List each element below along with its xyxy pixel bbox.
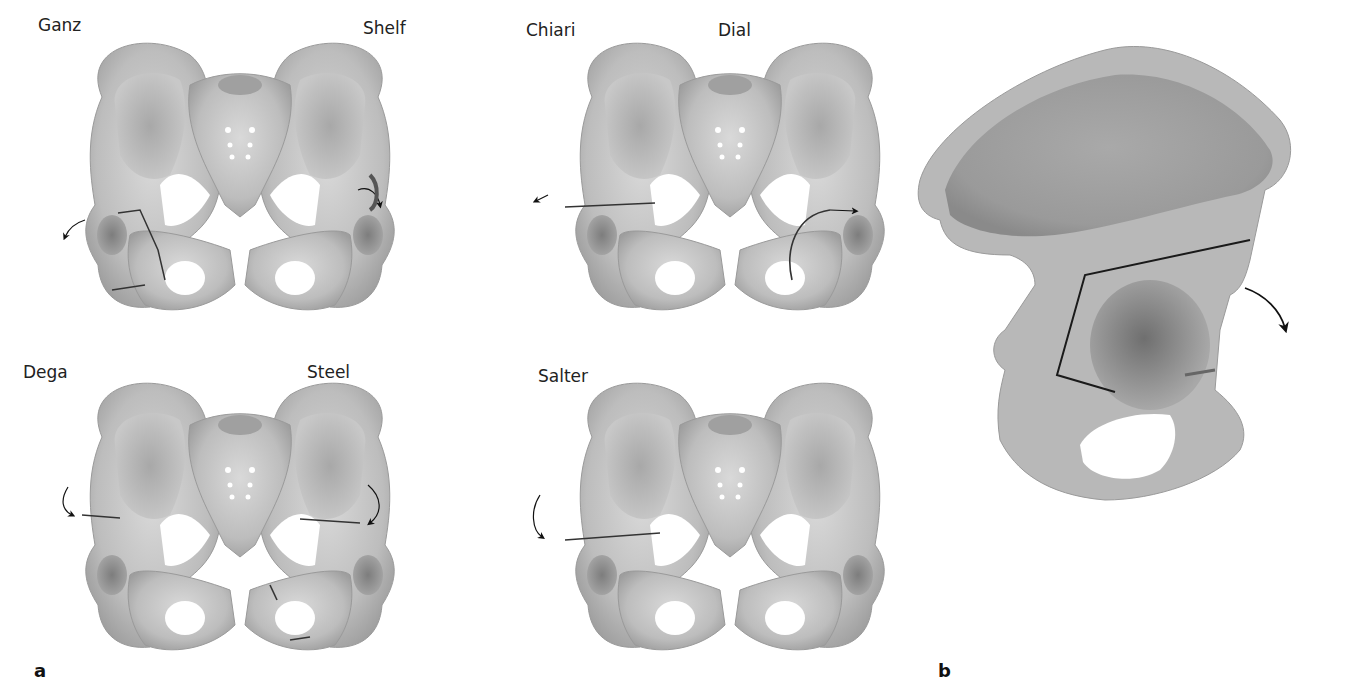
rotation-arrow-icon <box>63 487 72 515</box>
panel-label-a: a <box>34 660 46 681</box>
label-shelf: Shelf <box>363 18 406 38</box>
panel-label-b: b <box>938 660 951 681</box>
label-salter: Salter <box>538 366 588 386</box>
pelvis-illustration <box>40 35 440 325</box>
label-dega: Dega <box>23 362 68 382</box>
hemipelvis-lateral <box>905 30 1345 680</box>
label-ganz: Ganz <box>38 15 81 35</box>
displacement-arrow-icon <box>536 195 548 201</box>
label-steel: Steel <box>307 362 350 382</box>
pelvis-dega-steel: Dega Steel <box>40 375 440 665</box>
label-chiari: Chiari <box>526 20 576 40</box>
pelvis-illustration <box>40 375 440 665</box>
pelvis-illustration <box>530 375 930 665</box>
rotation-arrow-icon <box>65 220 85 237</box>
pelvis-chiari-dial: Chiari Dial <box>530 35 930 325</box>
pelvis-salter: Salter <box>530 375 930 665</box>
rotation-arrow-icon <box>533 495 542 537</box>
pelvis-ganz-shelf: Ganz Shelf <box>40 35 440 325</box>
rotation-arrow-icon <box>1245 288 1285 328</box>
hemipelvis-illustration <box>905 30 1345 680</box>
label-dial: Dial <box>718 20 751 40</box>
pelvis-illustration <box>530 35 930 325</box>
